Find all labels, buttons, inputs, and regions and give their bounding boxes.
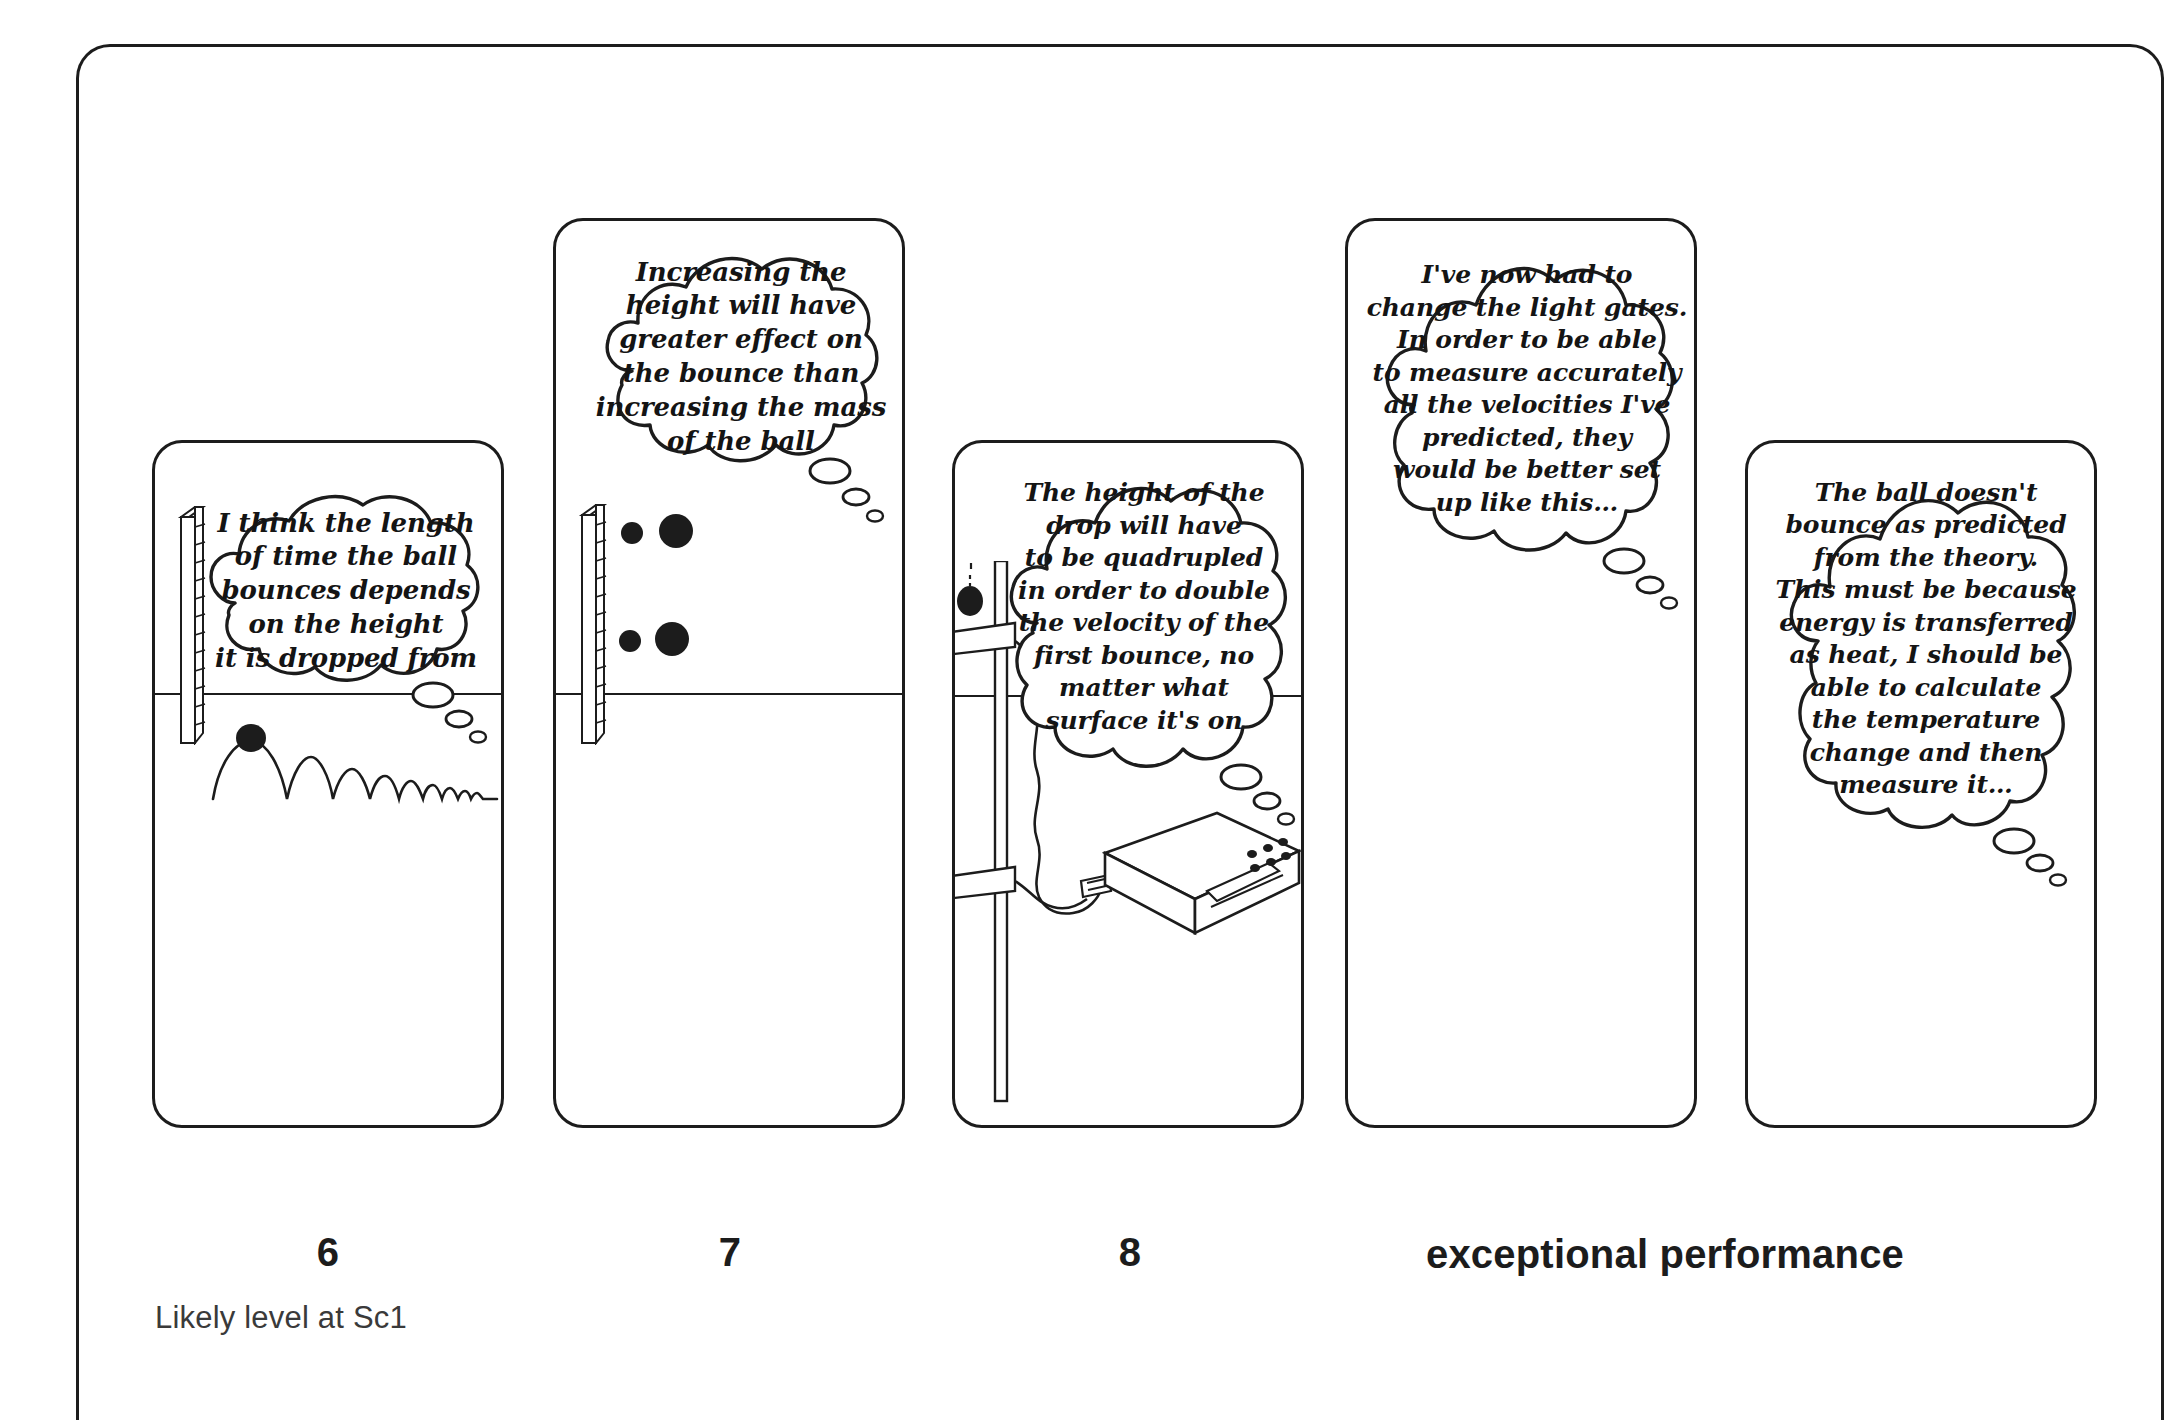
level-label-8: 8 bbox=[1030, 1230, 1230, 1275]
panel-exceptional-a[interactable]: I've now had to change the light gates. … bbox=[1345, 218, 1697, 1128]
panel-exceptional-b[interactable]: The ball doesn't bounce as predicted fro… bbox=[1745, 440, 2097, 1128]
thought-bubble-panel-3: The height of the drop will have to be q… bbox=[993, 461, 1281, 741]
thought-bubble-panel-2: Increasing the height will have greater … bbox=[586, 241, 876, 473]
thought-bubble-panel-1: I think the length of time the ball boun… bbox=[181, 485, 481, 695]
panel-level-6[interactable]: I think the length of time the ball boun… bbox=[152, 440, 504, 1128]
level-label-7: 7 bbox=[630, 1230, 830, 1275]
level-label-6: 6 bbox=[228, 1230, 428, 1275]
figure-page: I think the length of time the ball boun… bbox=[0, 0, 2167, 1420]
thought-bubble-panel-5: The ball doesn't bounce as predicted fro… bbox=[1776, 469, 2072, 769]
level-label-exceptional: exceptional performance bbox=[1365, 1232, 1965, 1277]
likely-level-note: Likely level at Sc1 bbox=[155, 1300, 407, 1336]
panel-level-7[interactable]: Increasing the height will have greater … bbox=[553, 218, 905, 1128]
panel-level-8[interactable]: The height of the drop will have to be q… bbox=[952, 440, 1304, 1128]
thought-bubble-panel-4: I've now had to change the light gates. … bbox=[1372, 243, 1672, 521]
